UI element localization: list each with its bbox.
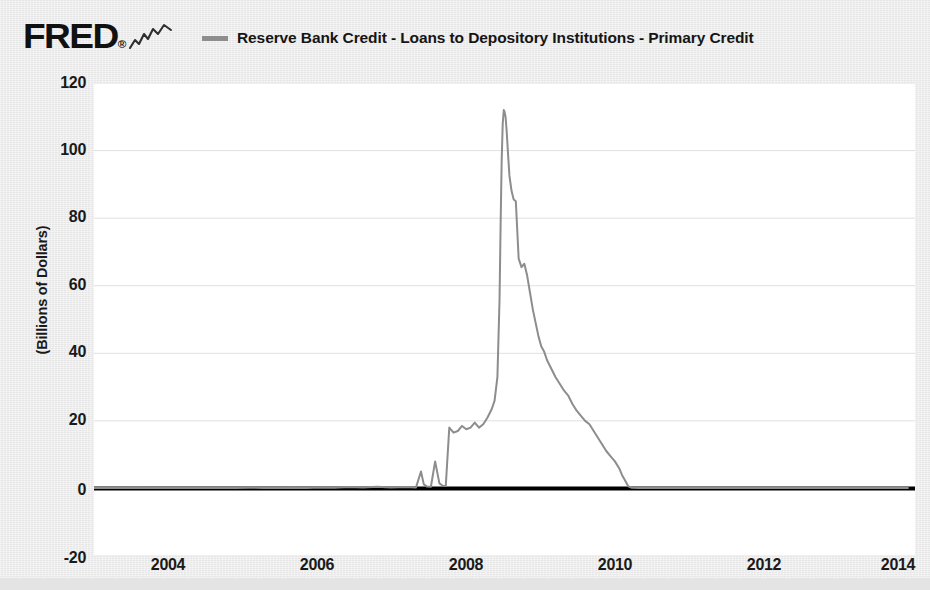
x-tick-2014: 2014 [853,556,930,574]
plot-area [94,83,915,556]
x-tick-2006: 2006 [272,556,362,574]
gridlines [94,83,915,556]
x-tick-2008: 2008 [421,556,511,574]
x-tick-2010: 2010 [570,556,660,574]
x-tick-2012: 2012 [719,556,809,574]
data-series-line [94,110,908,488]
plot-svg [94,83,915,556]
fred-chart-figure: FRED® Reserve Bank Credit - Loans to Dep… [0,0,930,590]
figure-bottom-edge [0,578,930,590]
x-tick-2004: 2004 [123,556,213,574]
